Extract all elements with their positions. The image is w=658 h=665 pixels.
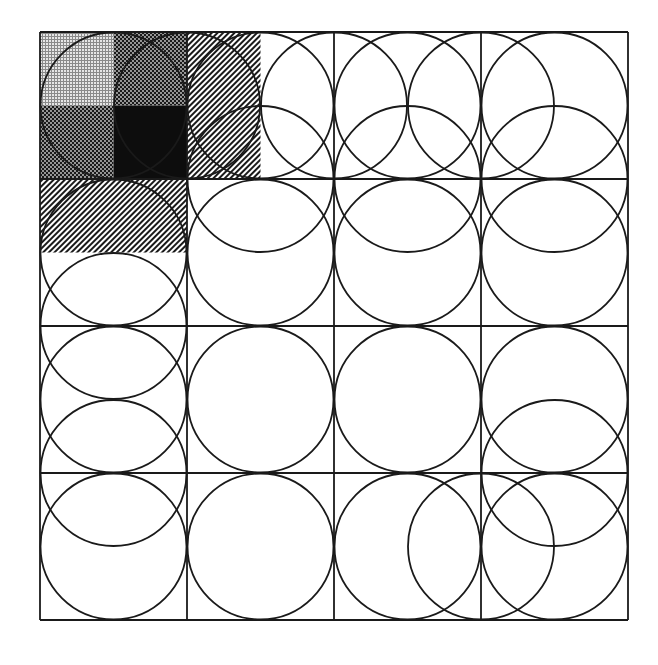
covering-circle bbox=[335, 327, 481, 473]
circle-covering-diagram bbox=[0, 0, 658, 665]
covering-circle bbox=[188, 327, 334, 473]
shaded-region-hatch-bottom bbox=[40, 179, 187, 253]
shaded-regions bbox=[40, 32, 261, 253]
covering-circle bbox=[188, 474, 334, 620]
shaded-region-hatch-right bbox=[187, 32, 261, 179]
